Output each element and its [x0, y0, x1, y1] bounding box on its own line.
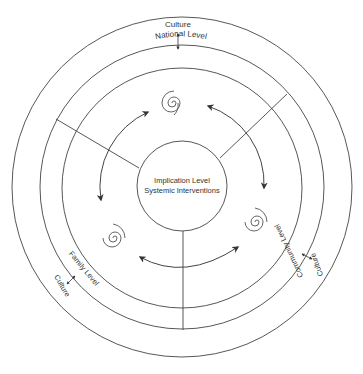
center-label-line1: Implication Level: [154, 176, 210, 185]
culture-arrow-left: [67, 276, 75, 284]
spiral-icon-left: [103, 224, 125, 247]
national-level-label: National Level: [154, 29, 208, 41]
culture-label-top: Culture: [165, 20, 191, 29]
family-level-label: Family Level: [67, 249, 101, 287]
culture-label-right: Culture: [308, 252, 325, 278]
spiral-icon-right: [245, 208, 267, 231]
center-label-line2: Systemic Interventions: [144, 186, 220, 195]
arrow-left-top: [100, 112, 148, 200]
culture-label-left: Culture: [52, 273, 72, 298]
systemic-levels-diagram: Culture National Level Implication Level…: [0, 0, 363, 374]
arrow-top-right: [208, 106, 264, 188]
spiral-icon-top: [162, 91, 180, 115]
community-level-label: Community Level: [272, 223, 305, 280]
arrow-bottom: [140, 247, 238, 267]
divider-right: [220, 94, 287, 158]
